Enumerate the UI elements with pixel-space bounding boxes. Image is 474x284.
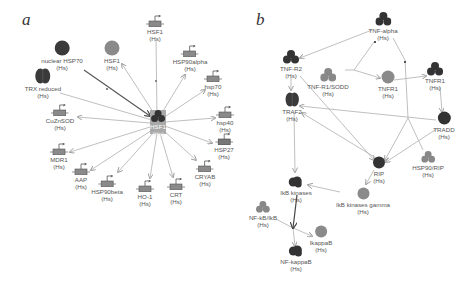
protein-icon bbox=[373, 156, 386, 169]
protein-icon bbox=[54, 40, 70, 56]
gene-icon bbox=[204, 70, 222, 82]
protein-icon bbox=[381, 70, 395, 84]
node-ikb-kinases[interactable]: IkB kinases (Hs) bbox=[280, 176, 312, 203]
gene-icon bbox=[181, 45, 199, 57]
node-tnfr1-protein[interactable]: TNFR1 (Hs) bbox=[378, 70, 398, 99]
node-tradd[interactable]: TRADD (Hs) bbox=[433, 111, 454, 140]
trimer-complex-icon bbox=[151, 110, 165, 122]
trimer-complex-icon bbox=[421, 151, 435, 163]
inhibition-edge bbox=[84, 70, 150, 116]
gene-icon bbox=[98, 175, 116, 187]
protein-dimer-icon bbox=[35, 68, 51, 84]
trimer-complex-icon bbox=[375, 12, 391, 26]
node-tnf-alpha[interactable]: TNF-alpha (Hs) bbox=[368, 12, 397, 41]
node-cryab[interactable]: CRYAB (Hs) bbox=[195, 160, 216, 187]
node-ikb-kinase-gamma[interactable]: IkB kinases gamma (Hs) bbox=[336, 187, 390, 215]
protein-cluster-icon bbox=[288, 245, 303, 257]
node-rip[interactable]: RIP (Hs) bbox=[373, 156, 386, 184]
node-hsf1-protein[interactable]: HSF1 (Hs) bbox=[104, 40, 120, 71]
hub-node-hsf1[interactable]: HSF1 (Hs) bbox=[150, 110, 166, 137]
panel-label-a: a bbox=[22, 10, 31, 30]
node-mdr1[interactable]: MDR1 (Hs) bbox=[50, 143, 68, 170]
node-nuclear-hsp70[interactable]: nuclear HSP70 (Hs) bbox=[41, 40, 83, 71]
node-ho1[interactable]: HO-1 (Hs) bbox=[136, 180, 154, 207]
protein-dimer-icon bbox=[285, 92, 299, 107]
protein-icon bbox=[315, 225, 328, 238]
node-hsp40[interactable]: hsp40 (Hs) bbox=[216, 106, 234, 133]
protein-cluster-icon bbox=[288, 176, 303, 188]
node-hsp70-gene[interactable]: hsp70 (Hs) bbox=[204, 70, 222, 97]
protein-icon bbox=[104, 40, 120, 56]
node-nf-kappab[interactable]: NF-kappaB (Hs) bbox=[280, 245, 311, 272]
node-nf-kb-ikb[interactable]: NF-kB/IkB (Hs) bbox=[249, 201, 277, 228]
node-hsp27[interactable]: HSP27 (Hs) bbox=[214, 133, 234, 160]
node-hsf1-gene[interactable]: HSF1 (Hs) bbox=[146, 15, 164, 42]
node-aap[interactable]: AAP (Hs) bbox=[72, 163, 90, 190]
panel-label-b: b bbox=[256, 10, 265, 30]
node-hsp90alpha[interactable]: HSP90alpha (Hs) bbox=[173, 45, 208, 72]
gene-icon bbox=[196, 160, 214, 172]
gene-icon bbox=[136, 180, 154, 192]
gene-icon bbox=[146, 15, 164, 27]
trimer-complex-icon bbox=[320, 68, 336, 82]
node-traf2[interactable]: TRAF2 (Hs) bbox=[282, 92, 302, 122]
gene-icon bbox=[51, 104, 69, 116]
trimer-complex-icon bbox=[427, 62, 443, 76]
node-hsp90-rip[interactable]: HSP90/RIP (Hs) bbox=[412, 151, 444, 178]
node-cuznsod[interactable]: CuZnSOD (Hs) bbox=[46, 104, 75, 131]
node-tnf-r2[interactable]: TNF-R2 (Hs) bbox=[280, 50, 302, 79]
trimer-complex-icon bbox=[256, 201, 270, 213]
node-ikappab[interactable]: IkappaB (Hs) bbox=[310, 225, 333, 253]
gene-icon bbox=[50, 143, 68, 155]
node-trx-reduced[interactable]: TRX reduced (Hs) bbox=[25, 68, 61, 99]
gene-icon bbox=[215, 133, 233, 145]
node-hsp90beta[interactable]: HSP90beta (Hs) bbox=[91, 175, 123, 202]
protein-icon bbox=[357, 187, 370, 200]
node-crt[interactable]: CRT (Hs) bbox=[167, 178, 185, 205]
gene-icon bbox=[167, 178, 185, 190]
trimer-complex-icon bbox=[283, 50, 299, 64]
gene-icon bbox=[72, 163, 90, 175]
node-tnfr1-complex[interactable]: TNFR1 (Hs) bbox=[425, 62, 445, 91]
gene-icon bbox=[216, 106, 234, 118]
protein-icon bbox=[437, 111, 451, 125]
node-tnfr1-sodd[interactable]: TNF-R1/SODD (Hs) bbox=[307, 68, 349, 97]
